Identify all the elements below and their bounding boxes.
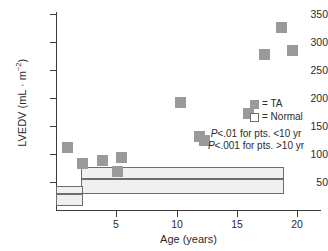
data-point-ta-11 [276,22,287,33]
annotation-line-1: P<.01 for pts. <10 yr [186,128,326,140]
data-point-ta-12 [287,45,298,56]
data-point-ta-2 [77,158,88,169]
y-tick-200 [50,98,56,99]
y-axis-title-exponent: −2 [14,62,23,71]
y-tick-50 [50,182,56,183]
x-tick-label-5: 5 [101,219,131,230]
x-axis-line [56,210,321,211]
y-tick-label-50: 50 [284,177,328,188]
annotation-2-p-symbol: P [208,140,215,151]
legend-item-normal: = Normal [250,112,303,122]
x-tick-20 [297,211,298,217]
y-axis-title: LVEDV (mL · m−2) [14,18,28,188]
y-tick-300 [50,42,56,43]
y-tick-label-350: 350 [284,9,328,20]
open-square-icon [250,113,259,122]
data-point-ta-1 [62,142,73,153]
legend-item-ta: = TA [250,99,303,109]
data-point-ta-4 [112,166,123,177]
data-point-ta-5 [116,152,127,163]
y-tick-label-250: 250 [284,65,328,76]
data-point-ta-3 [97,155,108,166]
normal-range-mean-child-adult [82,178,283,180]
y-tick-250 [50,70,56,71]
legend: = TA = Normal [250,99,303,125]
annotation-2-text: <.001 for pts. >10 yr [215,140,305,151]
normal-range-mean-infant [57,193,82,195]
x-tick-10 [177,211,178,217]
y-axis-title-base: LVEDV (mL · m [16,71,28,147]
y-axis-line [56,12,57,211]
data-point-ta-6 [175,97,186,108]
annotation-1-text: <.01 for pts. <10 yr [217,128,301,139]
x-tick-15 [237,211,238,217]
data-point-ta-10 [259,49,270,60]
y-tick-350 [50,14,56,15]
annotation-line-2: P<.001 for pts. >10 yr [186,140,326,152]
legend-label-ta: = TA [262,99,282,109]
legend-label-normal: = Normal [262,112,303,122]
filled-square-icon [250,100,259,109]
lvedv-vs-age-scatter-chart: 350 300 250 200 150 100 50 5 10 15 20 Ag… [0,0,328,251]
y-axis-title-close: ) [16,59,28,63]
x-axis-title: Age (years) [56,233,321,245]
x-tick-label-10: 10 [162,219,192,230]
statistical-annotations: P<.01 for pts. <10 yr P<.001 for pts. >1… [186,128,326,152]
x-tick-5 [116,211,117,217]
x-tick-label-15: 15 [222,219,252,230]
x-tick-label-20: 20 [282,219,312,230]
y-tick-150 [50,126,56,127]
y-tick-100 [50,154,56,155]
normal-range-box-infant [56,186,83,206]
